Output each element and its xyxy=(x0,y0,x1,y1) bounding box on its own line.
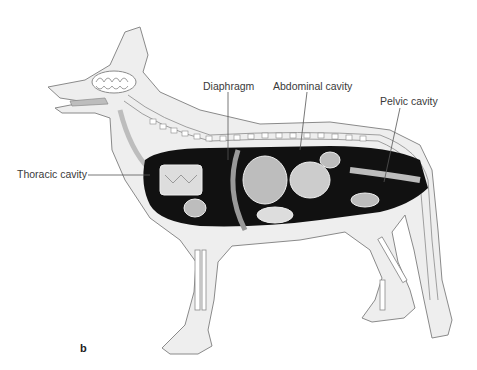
spleen xyxy=(257,207,293,223)
liver-stomach xyxy=(243,156,287,204)
heart xyxy=(184,199,206,217)
label-pelvic-cavity: Pelvic cavity xyxy=(380,95,438,107)
label-diaphragm: Diaphragm xyxy=(203,80,254,92)
bladder xyxy=(351,193,379,207)
panel-letter: b xyxy=(80,342,87,354)
label-thoracic-cavity: Thoracic cavity xyxy=(17,168,87,180)
dog-anatomy-illustration xyxy=(0,0,477,370)
intestines xyxy=(290,162,330,198)
label-abdominal-cavity: Abdominal cavity xyxy=(273,80,352,92)
lungs xyxy=(160,165,202,195)
brain xyxy=(92,71,136,93)
kidney xyxy=(320,152,340,168)
